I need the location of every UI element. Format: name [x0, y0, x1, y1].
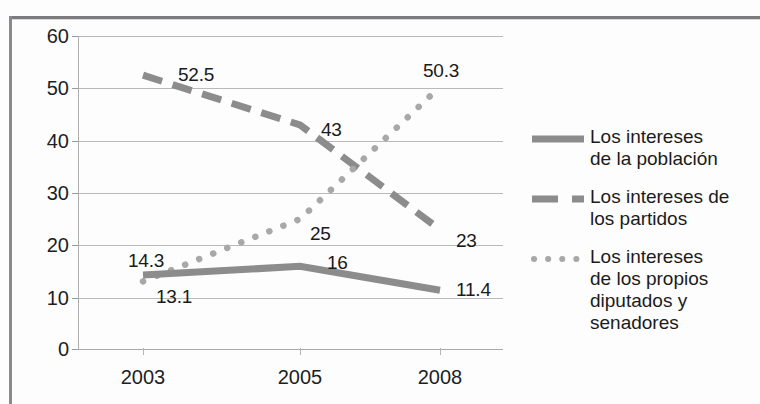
legend-label-poblacion-line1: Los intereses	[590, 126, 718, 148]
y-axis-label-0: 0	[58, 338, 69, 361]
data-label-propios-2003: 13.1	[156, 286, 192, 308]
legend-label-partidos: Los intereses de los partidos	[590, 186, 729, 230]
y-axis-label-30: 30	[47, 182, 69, 205]
legend-item-propios-diputados[interactable]: Los intereses de los propios diputados y…	[530, 246, 755, 334]
x-axis-label-2008: 2008	[418, 366, 463, 389]
legend-label-propios-diputados: Los intereses de los propios diputados y…	[590, 246, 708, 334]
legend-label-partidos-line1: Los intereses de	[590, 186, 729, 208]
legend-label-propios-line4: senadores	[590, 312, 708, 334]
dashed-line-marker	[530, 188, 590, 212]
chart-legend: Los intereses de la población Los intere…	[530, 126, 755, 350]
series-line-propios-diputados	[143, 87, 440, 282]
data-label-partidos-2005: 43	[321, 119, 342, 141]
frame-top-border-inner	[9, 19, 760, 20]
series-lines	[78, 36, 503, 350]
y-axis-label-50: 50	[47, 77, 69, 100]
chart-screenshot: 60 50 40 30 20 10 0 2003 2005 2008 52.5 …	[0, 0, 760, 404]
legend-label-poblacion: Los intereses de la población	[590, 126, 718, 170]
series-line-partidos	[143, 75, 440, 229]
x-axis-label-2003: 2003	[121, 366, 166, 389]
plot-area: 60 50 40 30 20 10 0 2003 2005 2008 52.5 …	[78, 36, 503, 350]
data-label-poblacion-2003: 14.3	[128, 250, 164, 272]
legend-label-partidos-line2: los partidos	[590, 208, 729, 230]
x-axis-label-2005: 2005	[278, 366, 323, 389]
data-label-poblacion-2008: 11.4	[456, 279, 491, 301]
legend-label-poblacion-line2: de la población	[590, 148, 718, 170]
frame-left-border	[9, 16, 12, 404]
y-axis-label-60: 60	[47, 25, 69, 48]
data-label-poblacion-2005: 16	[327, 252, 348, 274]
data-label-partidos-2003: 52.5	[178, 64, 214, 86]
legend-label-propios-line3: diputados y	[590, 290, 708, 312]
dotted-line-marker	[530, 248, 590, 272]
data-label-partidos-2008: 23	[456, 230, 477, 252]
solid-line-marker	[530, 128, 590, 152]
legend-item-poblacion[interactable]: Los intereses de la población	[530, 126, 755, 170]
legend-label-propios-line1: Los intereses	[590, 246, 708, 268]
y-axis-label-20: 20	[47, 234, 69, 257]
y-axis-label-10: 10	[47, 287, 69, 310]
data-label-propios-2005: 25	[310, 223, 331, 245]
y-axis-label-40: 40	[47, 130, 69, 153]
legend-item-partidos[interactable]: Los intereses de los partidos	[530, 186, 755, 230]
data-label-propios-2008: 50.3	[423, 60, 459, 82]
legend-label-propios-line2: de los propios	[590, 268, 708, 290]
